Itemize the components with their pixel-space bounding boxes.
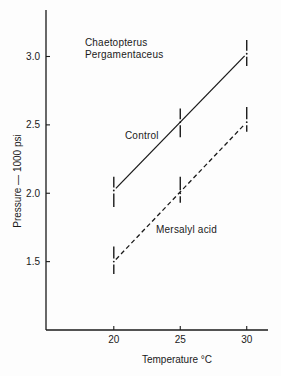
annotations: ChaetopterusPergamentaceusControlMersaly… [85,37,217,235]
annotation-label: Chaetopterus [85,37,147,48]
data-point [113,190,115,192]
data-point [179,192,181,194]
y-tick-label: 2.5 [26,119,40,130]
annotation-label: Mersalyl acid [156,224,217,235]
annotation-label: Control [125,130,159,141]
x-axis-label: Temperature °C [142,354,212,365]
data-point [113,261,115,263]
y-axis-label: Pressure — 1000 psi [12,134,23,227]
series-line [116,124,245,259]
x-tick-label: 20 [108,334,120,345]
annotation-label: Pergamentaceus [85,49,163,60]
pressure-temperature-chart: 1.52.02.53.0 202530 ChaetopterusPergamen… [0,0,281,376]
data-point [246,121,248,123]
y-tick-label: 1.5 [26,256,40,267]
data-point [246,53,248,55]
data-series [113,40,248,274]
chart-figure: 1.52.02.53.0 202530 ChaetopterusPergamen… [0,0,281,376]
x-tick-label: 25 [175,334,187,345]
x-ticks: 202530 [108,326,252,345]
y-tick-label: 3.0 [26,51,40,62]
data-point [179,121,181,123]
x-tick-label: 30 [241,334,253,345]
y-tick-label: 2.0 [26,188,40,199]
